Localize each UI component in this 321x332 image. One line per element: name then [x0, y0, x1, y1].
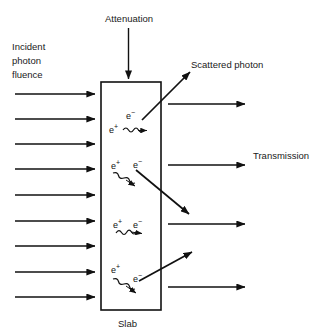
particle-pair-1: e− e+: [109, 109, 135, 135]
transmission-label: Transmission: [253, 150, 309, 161]
positron-label-4: e+: [111, 263, 120, 275]
positron-label-2: e+: [111, 159, 120, 171]
scattered-photon-label: Scattered photon: [191, 59, 263, 70]
scattered-arrow-up-2: [139, 252, 192, 281]
positron-label-3: e+: [113, 218, 122, 230]
particle-pair-2: e+ e−: [111, 158, 142, 171]
squiggle-pair-2: [113, 173, 135, 186]
attenuation-label: Attenuation: [105, 13, 153, 24]
electron-label-2: e−: [133, 158, 142, 170]
electron-label-1: e−: [126, 109, 135, 121]
slab-label: Slab: [118, 318, 137, 329]
squiggle-pair-3: [116, 230, 142, 234]
scattered-arrow-down-1: [136, 170, 189, 214]
squiggle-pair-1: [123, 128, 147, 132]
electron-label-4: e−: [133, 272, 142, 284]
incident-line-3: fluence: [12, 69, 43, 80]
incident-arrow-group: [15, 94, 95, 297]
particle-pair-4: e+ e−: [111, 263, 142, 284]
electron-label-3: e−: [133, 218, 142, 230]
incident-line-2: photon: [12, 55, 41, 66]
incident-photon-fluence-label: Incident photon fluence: [12, 41, 46, 80]
positron-label-1: e+: [109, 123, 118, 135]
attenuation-diagram: e− e+ e+ e− e+ e− e+: [0, 0, 321, 332]
particle-pair-3: e+ e−: [113, 218, 142, 230]
incident-line-1: Incident: [12, 41, 46, 52]
scattered-arrow-up-1: [142, 72, 190, 120]
